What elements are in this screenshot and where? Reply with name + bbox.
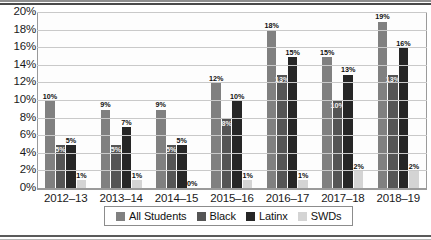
bar-value-label: 9% xyxy=(156,101,166,109)
x-axis-tick-label: 2014–15 xyxy=(149,192,204,204)
bar-group: 18%13%15%1% xyxy=(260,13,315,189)
y-axis-tick-label: 0% xyxy=(2,182,36,193)
gridline xyxy=(37,153,427,154)
legend-item[interactable]: SWDs xyxy=(298,210,342,222)
gridline xyxy=(37,170,427,171)
x-axis-tick-label: 2013–14 xyxy=(93,192,148,204)
bar-value-label: 9% xyxy=(100,101,110,109)
bar-group: 10%5%5%1% xyxy=(38,13,93,189)
gridline xyxy=(37,30,427,31)
bar[interactable]: 7% xyxy=(122,127,132,189)
bar[interactable]: 8% xyxy=(222,119,232,189)
legend-item[interactable]: Latinx xyxy=(246,210,288,222)
y-axis: 0%2%4%6%8%10%12%14%16%18%20% xyxy=(0,12,36,190)
bars-container: 10%5%5%1%9%5%7%1%9%5%5%0%12%8%10%1%18%13… xyxy=(38,13,426,189)
legend-swatch-icon xyxy=(197,212,206,221)
legend-swatch-icon xyxy=(116,212,125,221)
y-axis-tick-label: 18% xyxy=(2,24,36,35)
gridline xyxy=(37,65,427,66)
bar[interactable]: 13% xyxy=(277,75,287,189)
bar-value-label: 15% xyxy=(285,49,299,57)
legend-label: SWDs xyxy=(311,210,342,222)
bar[interactable]: 10% xyxy=(45,101,55,189)
bar[interactable]: 13% xyxy=(343,75,353,189)
bar-value-label: 5% xyxy=(66,137,76,145)
bottom-divider xyxy=(0,235,431,237)
bar-value-label: 5% xyxy=(177,137,187,145)
y-axis-tick-label: 16% xyxy=(2,41,36,52)
bar-group: 9%5%5%0% xyxy=(149,13,204,189)
bar-value-label: 1% xyxy=(298,172,308,180)
bar[interactable]: 16% xyxy=(399,48,409,189)
legend-label: Black xyxy=(210,210,236,222)
bar-value-label: 15% xyxy=(320,49,334,57)
bar[interactable]: 2% xyxy=(409,171,419,189)
x-axis-tick-label: 2016–17 xyxy=(260,192,315,204)
bar-value-label: 13% xyxy=(341,66,355,74)
gridline xyxy=(37,12,427,13)
legend-item[interactable]: All Students xyxy=(116,210,187,222)
bar-value-label: 1% xyxy=(243,172,253,180)
x-axis-tick-label: 2015–16 xyxy=(204,192,259,204)
grouped-bar-chart: 0%2%4%6%8%10%12%14%16%18%20% 10%5%5%1%9%… xyxy=(0,8,431,230)
bar[interactable]: 5% xyxy=(167,145,177,189)
gridline xyxy=(37,135,427,136)
bar[interactable]: 15% xyxy=(288,57,298,189)
gridline xyxy=(37,188,427,189)
legend-label: All Students xyxy=(129,210,187,222)
top-divider-light xyxy=(0,0,431,2)
bar[interactable]: 5% xyxy=(177,145,187,189)
legend-swatch-icon xyxy=(298,212,307,221)
y-axis-tick-label: 20% xyxy=(2,6,36,17)
bar-value-label: 7% xyxy=(121,119,131,127)
bar-value-label: 8% xyxy=(222,120,232,128)
chart-page: 0%2%4%6%8%10%12%14%16%18%20% 10%5%5%1%9%… xyxy=(0,0,431,240)
bar[interactable]: 5% xyxy=(111,145,121,189)
bar-value-label: 1% xyxy=(76,172,86,180)
y-axis-tick-label: 4% xyxy=(2,147,36,158)
legend-item[interactable]: Black xyxy=(197,210,236,222)
gridline xyxy=(37,82,427,83)
bar-value-label: 19% xyxy=(375,13,389,21)
bar[interactable]: 5% xyxy=(66,145,76,189)
bar-value-label: 0% xyxy=(187,180,197,188)
y-axis-tick-label: 2% xyxy=(2,164,36,175)
y-axis-tick-label: 14% xyxy=(2,59,36,70)
chart-legend: All StudentsBlackLatinxSWDs xyxy=(104,206,353,226)
bar[interactable]: 9% xyxy=(101,110,111,189)
gridline xyxy=(37,118,427,119)
bar[interactable]: 10% xyxy=(333,101,343,189)
top-divider xyxy=(0,3,431,5)
y-axis-tick-label: 8% xyxy=(2,112,36,123)
bar[interactable]: 15% xyxy=(322,57,332,189)
x-axis-tick-label: 2018–19 xyxy=(371,192,426,204)
bar[interactable]: 5% xyxy=(56,145,66,189)
legend-swatch-icon xyxy=(246,212,255,221)
bar[interactable]: 13% xyxy=(388,75,398,189)
bar-group: 19%13%16%2% xyxy=(371,13,426,189)
x-axis-tick-label: 2017–18 xyxy=(315,192,370,204)
bar[interactable]: 10% xyxy=(232,101,242,189)
gridline xyxy=(37,47,427,48)
bar-group: 9%5%7%1% xyxy=(93,13,148,189)
y-axis-tick-label: 12% xyxy=(2,76,36,87)
bar[interactable]: 18% xyxy=(267,31,277,189)
bar-group: 15%10%13%2% xyxy=(315,13,370,189)
gridline xyxy=(37,100,427,101)
bar[interactable]: 2% xyxy=(354,171,364,189)
y-axis-tick-label: 6% xyxy=(2,129,36,140)
bar-group: 12%8%10%1% xyxy=(204,13,259,189)
legend-label: Latinx xyxy=(259,210,288,222)
bar-value-label: 1% xyxy=(132,172,142,180)
bar[interactable]: 9% xyxy=(156,110,166,189)
y-axis-tick-label: 10% xyxy=(2,94,36,105)
x-axis-tick-label: 2012–13 xyxy=(38,192,93,204)
